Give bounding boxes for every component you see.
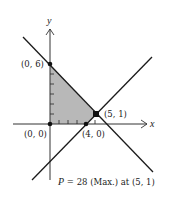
constraint-line-decreasing bbox=[23, 37, 153, 172]
y-axis-label: y bbox=[46, 15, 52, 26]
vertex-dot-0-0 bbox=[48, 122, 53, 127]
vertex-dot-0-6 bbox=[48, 62, 53, 67]
point-label-4-0: (4, 0) bbox=[82, 129, 105, 139]
linear-programming-graph: y x (0, 6) (0, 0) (4, 0) (5, 1) P = 28 (… bbox=[0, 0, 180, 201]
caption-variable: P bbox=[57, 176, 64, 187]
vertex-dot-4-0 bbox=[84, 122, 89, 127]
x-axis-label: x bbox=[149, 118, 155, 129]
point-label-5-1: (5, 1) bbox=[104, 109, 127, 119]
point-label-0-0: (0, 0) bbox=[24, 129, 47, 139]
caption-text: = 28 (Max.) at (5, 1) bbox=[64, 177, 155, 187]
vertex-dot-5-1 bbox=[93, 111, 99, 117]
point-label-0-6: (0, 6) bbox=[21, 59, 44, 69]
result-caption: P = 28 (Max.) at (5, 1) bbox=[57, 176, 155, 187]
